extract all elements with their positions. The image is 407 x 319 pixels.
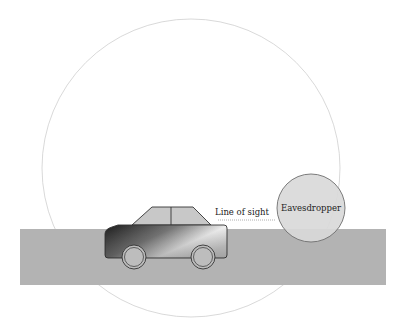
car-wheel-front <box>122 245 146 269</box>
line-of-sight-label: Line of sight <box>215 207 270 217</box>
line-of-sight: Line of sight <box>215 207 276 220</box>
car-wheel-rear <box>191 245 215 269</box>
eavesdropper: Eavesdropper <box>277 174 345 242</box>
eavesdropper-label: Eavesdropper <box>281 203 342 213</box>
eavesdropping-diagram: Eavesdropper Line of sight <box>0 0 407 319</box>
car-cabin <box>132 207 211 225</box>
